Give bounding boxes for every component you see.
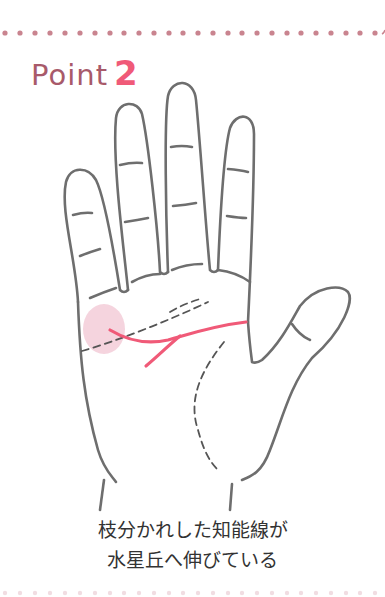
dotted-border-bottom	[0, 590, 385, 596]
mount-highlight	[83, 304, 125, 354]
caption: 枝分かれした知能線が 水星丘へ伸びている	[0, 515, 385, 575]
caption-line-1: 枝分かれした知能線が	[0, 515, 385, 545]
palm-illustration	[0, 0, 385, 597]
hand-outline	[65, 83, 350, 510]
branched-head-line	[110, 322, 246, 366]
caption-line-2: 水星丘へ伸びている	[0, 545, 385, 575]
